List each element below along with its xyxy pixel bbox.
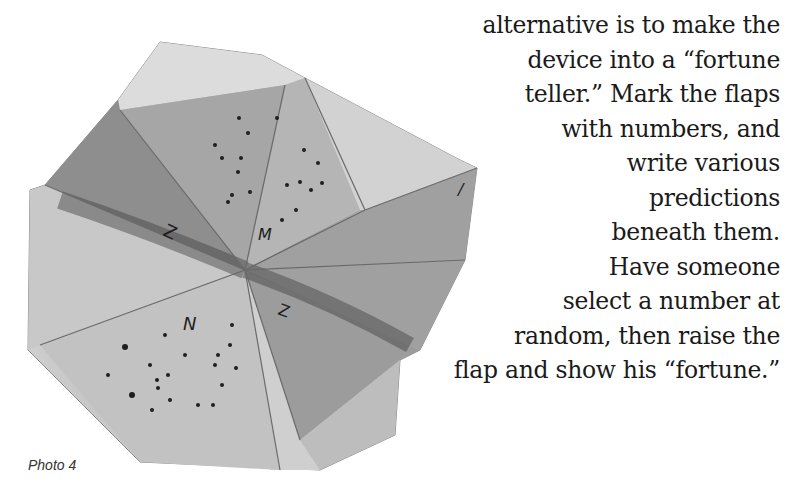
svg-text:N: N <box>183 313 196 334</box>
text-line: teller.” Mark the flaps <box>454 77 780 112</box>
text-line: with numbers, and <box>454 112 780 147</box>
text-line: write various <box>454 146 780 181</box>
fortune-teller-illustration: / Z Z N M <box>0 0 500 487</box>
text-line: random, then raise the <box>454 319 780 354</box>
text-line: device into a “fortune <box>454 43 780 78</box>
text-line: alternative is to make the <box>454 8 780 43</box>
text-line: beneath them. <box>454 215 780 250</box>
text-line: select a number at <box>454 284 780 319</box>
photo-caption: Photo 4 <box>28 457 76 473</box>
text-line: predictions <box>454 181 780 216</box>
text-line: flap and show his “fortune.” <box>454 353 780 388</box>
text-line: Have someone <box>454 250 780 285</box>
body-paragraph: alternative is to make the device into a… <box>454 8 780 388</box>
svg-text:M: M <box>258 225 272 244</box>
fortune-teller-photo: / Z Z N M <box>0 0 500 487</box>
